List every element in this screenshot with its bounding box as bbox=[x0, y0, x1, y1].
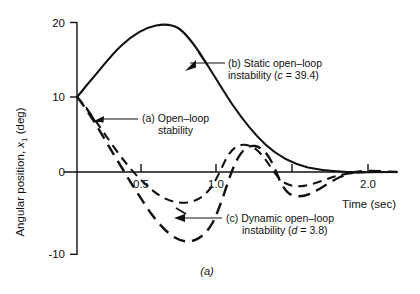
curve-b-static-open-loop-instability bbox=[77, 24, 397, 172]
y-tick-label-10: 10 bbox=[52, 91, 65, 103]
y-tick-label-20: 20 bbox=[52, 17, 65, 29]
annotation-c-label-line2: instability (d = 3.8) bbox=[242, 224, 328, 236]
y-axis-title: Angular position, x1 (deg) bbox=[14, 107, 29, 236]
annotation-b: (b) Static open–loop instability (c = 39… bbox=[185, 53, 322, 81]
x-tick-labels: 0.5 1.0 2.0 bbox=[133, 178, 376, 190]
y-axis-title-prefix: Angular position, bbox=[14, 148, 26, 237]
annotation-c-value: = 3.8) bbox=[297, 224, 327, 236]
annotation-a-label-line1: (a) Open–loop bbox=[142, 112, 209, 124]
y-tick-labels: 20 10 0 -10 bbox=[48, 17, 65, 260]
y-axis-title-suffix: (deg) bbox=[14, 107, 26, 137]
annotation-b-value: = 39.4) bbox=[283, 69, 319, 81]
annotation-a-curve-tick bbox=[86, 107, 95, 121]
svg-text:Angular position, x1 (deg): Angular position, x1 (deg) bbox=[14, 107, 29, 236]
figure-caption: (a) bbox=[200, 265, 214, 277]
x-axis-title: Time (sec) bbox=[342, 198, 396, 210]
annotation-b-label-line1: (b) Static open–loop bbox=[228, 57, 322, 69]
annotation-c: (c) Dynamic open–loop instability (d = 3… bbox=[174, 208, 334, 236]
annotation-a-label-line2: stability bbox=[158, 124, 194, 136]
x-tick-label-2p0: 2.0 bbox=[360, 178, 376, 190]
annotation-c-curve-tick bbox=[176, 208, 186, 214]
annotation-b-curve-tick bbox=[199, 53, 208, 66]
annotation-a: (a) Open–loop stability bbox=[86, 107, 209, 136]
y-tick-label-0: 0 bbox=[59, 166, 65, 178]
annotation-b-label-line2: instability (c = 39.4) bbox=[228, 69, 319, 81]
figure-panel-a: 20 10 0 -10 0.5 1.0 2.0 Time (sec) Angul… bbox=[0, 0, 420, 294]
annotation-b-arrowhead bbox=[185, 60, 196, 71]
annotation-c-prefix: instability ( bbox=[242, 224, 292, 236]
y-tick-label-minus10: -10 bbox=[48, 248, 65, 260]
annotation-c-arrowhead bbox=[174, 214, 185, 222]
annotation-b-prefix: instability ( bbox=[228, 69, 278, 81]
annotation-c-label-line1: (c) Dynamic open–loop bbox=[226, 212, 334, 224]
